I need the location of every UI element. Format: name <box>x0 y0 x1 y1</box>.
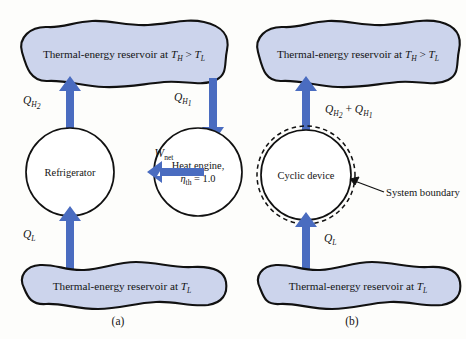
panel-a-caption: (a) <box>112 315 125 328</box>
panel-b-system-boundary-label: System boundary <box>386 187 461 198</box>
panel-a-arrow-w-net-shaft <box>160 168 204 176</box>
panel-b-label-q-sum: QH2 + QH1 <box>325 103 372 120</box>
panel-b-system-boundary-arrowhead <box>350 177 359 185</box>
panel-b-label-q-l: QL <box>324 232 337 247</box>
panel-a-label-q-h1: QH1 <box>174 91 192 108</box>
panel-b-caption: (b) <box>345 315 359 328</box>
thermodynamics-figure: Thermal-energy reservoir at TH > TL QH2 … <box>0 0 466 339</box>
panel-b-arrow-q-l <box>295 212 317 274</box>
panel-a-refrigerator-label: Refrigerator <box>45 167 96 178</box>
panel-a-label-q-h2: QH2 <box>23 94 41 111</box>
panel-a-label-q-l: QL <box>23 228 36 243</box>
panel-b-cyclic-device-label: Cyclic device <box>278 170 335 181</box>
diagram-canvas: Thermal-energy reservoir at TH > TL QH2 … <box>0 0 466 339</box>
panel-a-arrow-q-l <box>59 206 81 274</box>
